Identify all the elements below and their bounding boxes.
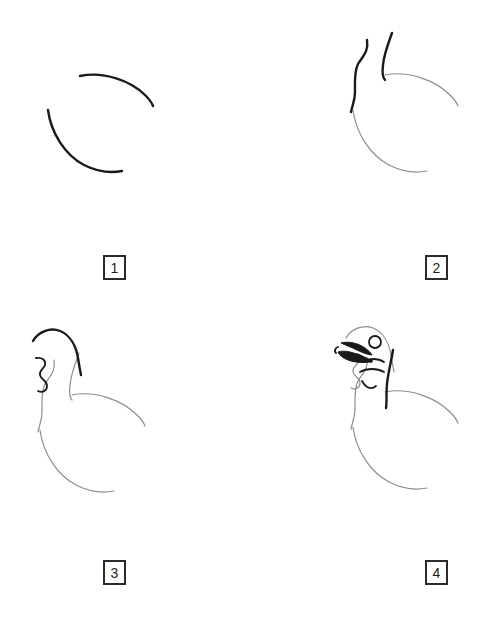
previous-body-left-arc <box>353 427 427 489</box>
step-number-label: 3 <box>111 566 119 580</box>
drawing-canvas-step-4 <box>245 310 490 555</box>
wattle-zigzag-stroke <box>36 358 47 392</box>
tutorial-step-panel-3: 3 <box>0 310 245 620</box>
drawing-canvas-step-3 <box>0 310 245 555</box>
step-number-badge-2: 2 <box>425 255 448 280</box>
step-number-label: 4 <box>433 566 441 580</box>
previous-body-top-arc <box>385 74 458 106</box>
face-marking-mid-stroke <box>360 369 384 372</box>
nape-stripe-stroke <box>386 350 393 408</box>
body-left-arc-stroke <box>48 110 122 172</box>
tutorial-step-panel-1: 1 <box>0 0 245 310</box>
drawing-canvas-step-2 <box>245 0 490 245</box>
step-number-label: 1 <box>111 261 119 275</box>
previous-body-left-arc <box>40 430 114 492</box>
face-marking-lower-stroke <box>362 381 376 388</box>
previous-body-left-arc <box>353 110 427 172</box>
drawing-tutorial-sheet: 1 2 3 <box>0 0 490 620</box>
step-number-label: 2 <box>433 261 441 275</box>
step-number-badge-1: 1 <box>103 255 126 280</box>
body-top-arc-stroke <box>80 75 153 106</box>
previous-body-top-arc <box>385 391 458 423</box>
drawing-canvas-step-1 <box>0 0 245 245</box>
previous-head-crown <box>346 327 394 372</box>
step-number-badge-4: 4 <box>425 560 448 585</box>
tutorial-step-panel-2: 2 <box>245 0 490 310</box>
tutorial-step-panel-4: 4 <box>245 310 490 620</box>
neck-back-stroke <box>383 33 392 80</box>
previous-body-top-arc <box>72 394 145 426</box>
step-number-badge-3: 3 <box>103 560 126 585</box>
eye-icon <box>369 336 381 348</box>
neck-front-stroke <box>351 40 367 112</box>
